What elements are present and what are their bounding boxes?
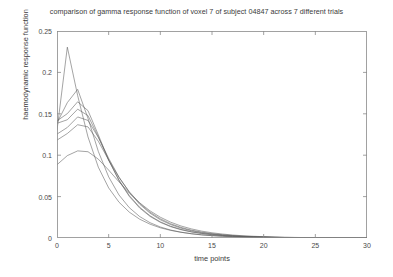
y-axis-label: haemodynamic response function [21,0,30,150]
series-line [57,109,367,238]
chart-figure: comparison of gamma response function of… [0,0,393,277]
x-tick-label: 0 [55,242,59,249]
x-tick-label: 30 [363,242,371,249]
series-line [57,89,367,238]
plot-svg [57,31,367,238]
series-lines [57,47,367,238]
y-tick-label: 0.05 [14,193,52,200]
x-tick-label: 15 [208,242,216,249]
y-tick-label: 0 [14,235,52,242]
y-tick-label: 0.1 [14,152,52,159]
axis-ticks [57,31,367,238]
x-tick-label: 25 [311,242,319,249]
x-tick-label: 20 [260,242,268,249]
series-line [57,47,367,238]
x-axis-label: time points [57,254,367,263]
x-tick-label: 5 [107,242,111,249]
x-tick-label: 10 [156,242,164,249]
plot-frame [58,32,367,238]
plot-area [57,31,367,238]
series-line [57,125,367,238]
series-line [57,102,367,238]
chart-title: comparison of gamma response function of… [0,7,393,16]
